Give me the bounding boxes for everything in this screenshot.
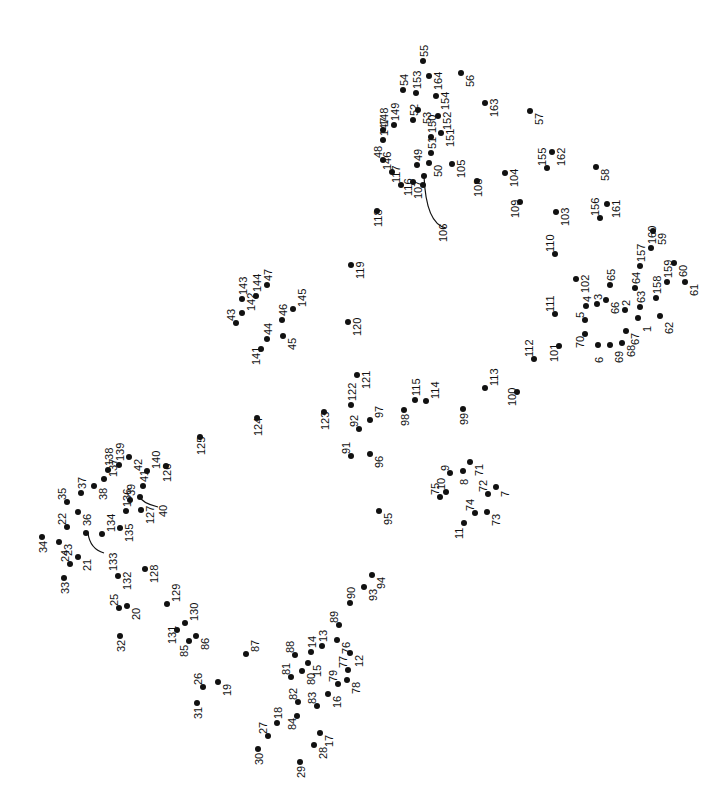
- puzzle-dot: [400, 87, 406, 93]
- dot-number-label: 92: [349, 415, 360, 427]
- dot-number-label: 18: [273, 707, 284, 719]
- dot-number-label: 119: [355, 261, 366, 279]
- dot-number-label: 45: [287, 338, 298, 350]
- dot-number-label: 29: [296, 766, 307, 778]
- dot-number-label: 21: [82, 559, 93, 571]
- puzzle-dot: [460, 468, 466, 474]
- dot-number-label: 85: [179, 645, 190, 657]
- puzzle-dot: [637, 263, 643, 269]
- puzzle-dot: [105, 467, 111, 473]
- dot-number-label: 125: [196, 437, 207, 455]
- dot-number-label: 104: [509, 169, 520, 187]
- puzzle-dot: [39, 534, 45, 540]
- puzzle-dot: [657, 313, 663, 319]
- dot-number-label: 20: [131, 608, 142, 620]
- dot-number-label: 113: [489, 368, 500, 386]
- dot-number-label: 164: [433, 72, 444, 90]
- puzzle-dot: [410, 117, 416, 123]
- dot-number-label: 106: [438, 224, 449, 242]
- dot-number-label: 16: [332, 696, 343, 708]
- puzzle-dot: [255, 746, 261, 752]
- dot-number-label: 88: [285, 641, 296, 653]
- dot-number-label: 8: [459, 479, 470, 485]
- dot-number-label: 118: [373, 209, 384, 227]
- dot-number-label: 132: [122, 572, 133, 590]
- dot-number-label: 83: [307, 692, 318, 704]
- dot-number-label: 61: [689, 284, 700, 296]
- dot-number-label: 162: [556, 148, 567, 166]
- dot-number-label: 105: [456, 160, 467, 178]
- dot-number-label: 134: [106, 514, 117, 532]
- dot-number-label: 120: [352, 318, 363, 336]
- puzzle-dot: [348, 402, 354, 408]
- puzzle-dot: [412, 397, 418, 403]
- puzzle-dot: [116, 462, 122, 468]
- puzzle-dot: [420, 58, 426, 64]
- puzzle-dot: [186, 638, 192, 644]
- dot-number-label: 4: [582, 296, 593, 302]
- dot-number-label: 6: [594, 357, 605, 363]
- dot-number-label: 72: [478, 480, 489, 492]
- puzzle-dot: [414, 162, 420, 168]
- dot-number-label: 49: [413, 149, 424, 161]
- dot-number-label: 110: [545, 234, 556, 252]
- dot-number-label: 161: [611, 200, 622, 218]
- puzzle-dot: [319, 643, 325, 649]
- dot-number-label: 133: [108, 553, 119, 571]
- dot-number-label: 93: [368, 589, 379, 601]
- dot-number-label: 91: [341, 442, 352, 454]
- dot-number-label: 42: [133, 459, 144, 471]
- dot-number-label: 149: [390, 103, 401, 121]
- dot-number-label: 99: [459, 413, 470, 425]
- dot-number-label: 67: [630, 333, 641, 345]
- dot-number-label: 158: [652, 276, 663, 294]
- dot-number-label: 122: [347, 383, 358, 401]
- puzzle-dot: [594, 301, 600, 307]
- dot-number-label: 90: [346, 587, 357, 599]
- puzzle-dot: [380, 137, 386, 143]
- dot-number-label: 146: [382, 152, 393, 170]
- dot-number-label: 1: [642, 326, 653, 332]
- dot-number-label: 136: [122, 489, 133, 507]
- dot-number-label: 139: [115, 443, 126, 461]
- dot-number-label: 50: [433, 165, 444, 177]
- dot-number-label: 38: [98, 488, 109, 500]
- dot-number-label: 141: [251, 347, 262, 365]
- puzzle-dot: [137, 494, 143, 500]
- dot-number-label: 73: [491, 514, 502, 526]
- dot-number-label: 46: [278, 304, 289, 316]
- dot-number-label: 40: [158, 505, 169, 517]
- dot-number-label: 64: [631, 272, 642, 284]
- dot-number-label: 152: [442, 112, 453, 130]
- dot-number-label: 157: [636, 244, 647, 262]
- dot-number-label: 98: [400, 414, 411, 426]
- puzzle-dot: [607, 342, 613, 348]
- dot-number-label: 75: [430, 483, 441, 495]
- dot-number-label: 5: [575, 312, 586, 318]
- dot-number-label: 9: [440, 465, 451, 471]
- dot-number-label: 66: [610, 302, 621, 314]
- dot-number-label: 111: [545, 295, 556, 312]
- dot-number-label: 81: [281, 663, 292, 675]
- dot-number-label: 32: [116, 640, 127, 652]
- puzzle-dot: [264, 336, 270, 342]
- dot-number-label: 12: [354, 655, 365, 667]
- dot-number-label: 130: [189, 603, 200, 621]
- dot-number-label: 114: [430, 381, 441, 399]
- dot-number-label: 77: [338, 656, 349, 668]
- dot-number-label: 79: [328, 670, 339, 682]
- dot-number-label: 108: [473, 179, 484, 197]
- dot-number-label: 63: [636, 291, 647, 303]
- dot-number-label: 128: [149, 565, 160, 583]
- dot-number-label: 7: [500, 491, 511, 497]
- dot-number-label: 47: [263, 269, 274, 281]
- dot-number-label: 28: [318, 747, 329, 759]
- puzzle-dot: [239, 296, 245, 302]
- puzzle-dot: [632, 285, 638, 291]
- dot-number-label: 27: [258, 722, 269, 734]
- puzzle-dot: [297, 759, 303, 765]
- dot-number-label: 95: [383, 513, 394, 525]
- dot-number-label: 26: [193, 673, 204, 685]
- dot-number-label: 115: [411, 378, 422, 396]
- leader-lines: [0, 0, 728, 808]
